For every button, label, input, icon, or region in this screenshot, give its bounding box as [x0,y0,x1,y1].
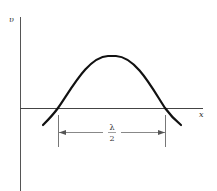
x-axis-label: x [199,110,204,119]
wave-diagram: υ x λ 2 [0,0,217,191]
arrowhead-left-icon [59,130,66,135]
wave-curve [43,56,181,125]
lambda-denominator: 2 [109,134,114,143]
y-axis-label: υ [9,15,14,24]
arrowhead-right-icon [158,130,165,135]
lambda-numerator: λ [109,123,114,132]
